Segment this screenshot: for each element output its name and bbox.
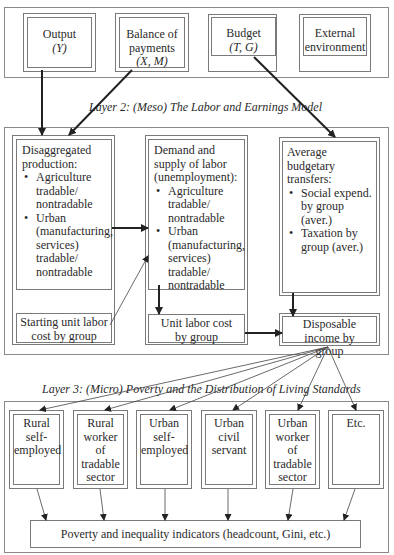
- group-box-rural-self-employed: Rural self- employed: [9, 410, 64, 489]
- group-box-etc: Etc.: [328, 410, 384, 489]
- disaggregated-production-box: Disaggregated production: Agriculture tr…: [16, 139, 112, 290]
- layer2-title: Layer 2: (Meso) The Labor and Earnings M…: [87, 100, 324, 115]
- group-label: Etc.: [333, 417, 379, 431]
- group-box-inner: Rural worker of tradable sector: [77, 414, 124, 485]
- group-box-inner: Urban civil servant: [205, 414, 253, 485]
- labor-heading: Demand and supply of labor (unemployment…: [154, 144, 242, 185]
- external-environment-box: External environment: [299, 14, 371, 72]
- disaggregated-item-agriculture: Agriculture tradable/ nontradable: [22, 171, 109, 212]
- budget-symbol: (T, G): [212, 41, 275, 55]
- transfers-item-social: Social expend. by group (aver.): [287, 187, 374, 228]
- group-box-urban-civil-servant: Urban civil servant: [201, 410, 257, 489]
- output-box-inner: Output (Y): [27, 17, 92, 68]
- budgetary-transfers-box-inner: Average budgetary transfers: Social expe…: [282, 141, 377, 293]
- group-label: Urban worker of tradable sector: [270, 417, 315, 485]
- group-box-urban-self-employed: Urban self- employed: [136, 410, 192, 489]
- group-label: Urban civil servant: [206, 417, 252, 458]
- external-environment-box-inner: External environment: [303, 17, 367, 56]
- output-title: Output: [28, 28, 91, 42]
- group-box-inner: Etc.: [332, 414, 380, 485]
- balance-title-line2: payments: [120, 42, 184, 56]
- group-box-inner: Urban worker of tradable sector: [269, 414, 316, 485]
- starting-unit-labor-cost-box: Starting unit labor cost by group: [16, 313, 112, 343]
- group-box-urban-worker-tradable: Urban worker of tradable sector: [265, 410, 320, 489]
- labor-item-urban: Urban (manufacturing, services) tradable…: [154, 225, 242, 293]
- group-box-inner: Urban self- employed: [140, 414, 188, 485]
- transfers-heading: Average budgetary transfers:: [287, 146, 374, 187]
- group-box-rural-worker-tradable: Rural worker of tradable sector: [73, 410, 128, 489]
- disposable-income-box-inner: Disposable income by group: [282, 316, 377, 343]
- external-title-line2: environment: [304, 41, 366, 55]
- output-box: Output (Y): [23, 13, 96, 72]
- poverty-indicators-box: Poverty and inequality indicators (headc…: [30, 520, 361, 548]
- labor-item-agriculture: Agriculture tradable/ nontradable: [154, 185, 242, 226]
- unit-labor-cost-label: Unit labor cost by group: [159, 317, 234, 344]
- balance-symbol: (X, M): [120, 55, 184, 69]
- unit-labor-cost-box: Unit labor cost by group: [148, 314, 245, 343]
- output-symbol: (Y): [28, 42, 91, 56]
- budget-box: Budget (T, G): [208, 14, 277, 72]
- group-label: Urban self- employed: [141, 417, 187, 458]
- transfers-item-taxation: Taxation by group (aver.): [287, 227, 374, 254]
- group-label: Rural self- employed: [14, 417, 59, 458]
- transfers-list: Social expend. by group (aver.) Taxation…: [287, 187, 374, 255]
- budgetary-transfers-box: Average budgetary transfers: Social expe…: [279, 137, 380, 296]
- balance-of-payments-box-inner: Balance of payments (X, M): [119, 17, 185, 68]
- disposable-income-label: Disposable income by group: [289, 318, 370, 359]
- group-box-inner: Rural self- employed: [13, 414, 60, 485]
- group-label: Rural worker of tradable sector: [78, 417, 123, 485]
- starting-unit-labor-cost-label: Starting unit labor cost by group: [17, 316, 111, 343]
- disaggregated-list: Agriculture tradable/ nontradable Urban …: [22, 171, 109, 279]
- balance-of-payments-box: Balance of payments (X, M): [115, 13, 189, 72]
- budget-title: Budget: [212, 27, 275, 41]
- poverty-indicators-label: Poverty and inequality indicators (headc…: [61, 527, 331, 541]
- labor-list: Agriculture tradable/ nontradable Urban …: [154, 185, 242, 293]
- disposable-income-box: Disposable income by group: [279, 313, 380, 346]
- labor-demand-supply-box: Demand and supply of labor (unemployment…: [148, 139, 245, 290]
- disaggregated-heading: Disaggregated production:: [22, 144, 109, 171]
- disaggregated-item-urban: Urban (manufacturing, services) tradable…: [22, 212, 109, 280]
- balance-title-line1: Balance of: [120, 28, 184, 42]
- external-title-line1: External: [304, 27, 366, 41]
- layer3-title: Layer 3: (Micro) Poverty and the Distrib…: [40, 382, 363, 397]
- budget-box-inner: Budget (T, G): [211, 17, 276, 56]
